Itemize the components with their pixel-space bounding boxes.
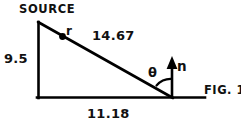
angle-label: θ — [148, 66, 157, 79]
radius-point-dot — [59, 33, 66, 40]
angle-arc — [157, 79, 173, 86]
vertical-leg-length-label: 9.5 — [4, 52, 28, 65]
base-leg-length-label: 11.18 — [87, 107, 130, 120]
normal-vector-arrowhead — [167, 56, 178, 69]
figure-container: SOURCE r 14.67 9.5 11.18 θ n FIG. 1 — [0, 0, 241, 127]
hypotenuse-length-label: 14.67 — [92, 29, 135, 42]
radius-label: r — [66, 25, 72, 37]
normal-vector-label: n — [177, 60, 187, 74]
figure-caption: FIG. 1 — [204, 85, 241, 97]
source-label: SOURCE — [19, 4, 75, 16]
